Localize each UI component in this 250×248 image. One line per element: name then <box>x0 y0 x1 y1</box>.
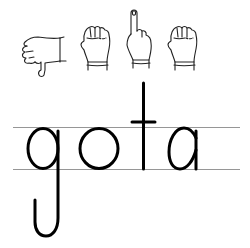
hand-sign-a-icon <box>168 27 197 71</box>
hand-sign-o-icon <box>81 27 110 71</box>
worksheet: gota <box>0 0 250 248</box>
hand-sign-g-icon <box>22 37 66 77</box>
letter-a <box>169 128 196 169</box>
letter-t <box>132 83 155 169</box>
letter-g <box>28 129 58 237</box>
hand-sign-t-icon <box>127 10 151 68</box>
letter-o <box>80 129 118 169</box>
worksheet-drawing <box>0 0 250 248</box>
